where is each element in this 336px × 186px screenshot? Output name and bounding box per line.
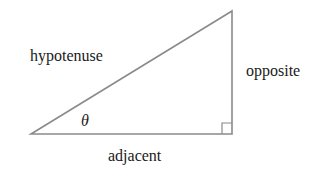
- theta-angle-label: θ: [81, 113, 89, 129]
- right-triangle-figure: [0, 0, 336, 186]
- opposite-label: opposite: [246, 63, 300, 79]
- adjacent-label: adjacent: [108, 148, 161, 164]
- hypotenuse-label: hypotenuse: [30, 48, 103, 64]
- right-angle-marker: [222, 123, 232, 134]
- triangle-outline: [31, 11, 232, 134]
